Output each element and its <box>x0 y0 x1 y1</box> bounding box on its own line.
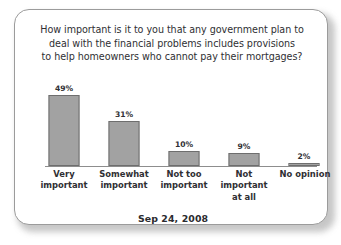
category-line: at all <box>211 192 277 203</box>
category-label-not-too-important: Not too important <box>151 169 217 192</box>
category-line: Somewhat <box>91 169 157 180</box>
bar-group-somewhat-important: 31% <box>95 72 153 166</box>
category-line: No opinion <box>269 169 341 180</box>
question-line-3: to help homeowners who cannot pay their … <box>33 50 311 64</box>
category-line: important <box>31 180 97 191</box>
chart-date-caption: Sep 24, 2008 <box>29 213 317 224</box>
chart-question-title: How important is it to you that any gove… <box>33 23 311 64</box>
category-label-not-important-at-all: Not important at all <box>211 169 277 203</box>
bar-not-important-at-all[interactable] <box>229 153 260 166</box>
bar-value-label: 31% <box>115 110 133 119</box>
question-line-1: How important is it to you that any gove… <box>33 23 311 37</box>
bar-value-label: 9% <box>238 142 251 151</box>
chart-screenshot: How important is it to you that any gove… <box>0 0 341 245</box>
category-label-very-important: Very important <box>31 169 97 192</box>
category-line: important <box>211 180 277 191</box>
category-line: important <box>151 180 217 191</box>
x-axis-category-labels: Very important Somewhat important Not to… <box>29 169 317 209</box>
bar-value-label: 10% <box>175 140 193 149</box>
bar-value-label: 49% <box>55 84 73 93</box>
bar-group-very-important: 49% <box>35 72 93 166</box>
category-line: important <box>91 180 157 191</box>
category-label-somewhat-important: Somewhat important <box>91 169 157 192</box>
category-line: Not too <box>151 169 217 180</box>
bar-very-important[interactable] <box>49 95 80 166</box>
category-line: Very <box>31 169 97 180</box>
bar-somewhat-important[interactable] <box>109 121 140 166</box>
chart-card: How important is it to you that any gove… <box>14 9 328 225</box>
bar-group-not-too-important: 10% <box>155 72 213 166</box>
question-line-2: deal with the financial problems include… <box>33 37 311 51</box>
bar-not-too-important[interactable] <box>169 151 200 166</box>
plot-area: 49% 31% 10% 9% 2% <box>29 72 317 167</box>
x-axis-line <box>45 166 317 167</box>
category-label-no-opinion: No opinion <box>269 169 341 180</box>
bar-value-label: 2% <box>298 152 311 161</box>
bar-group-no-opinion: 2% <box>275 72 333 166</box>
bar-group-not-important-at-all: 9% <box>215 72 273 166</box>
category-line: Not <box>211 169 277 180</box>
